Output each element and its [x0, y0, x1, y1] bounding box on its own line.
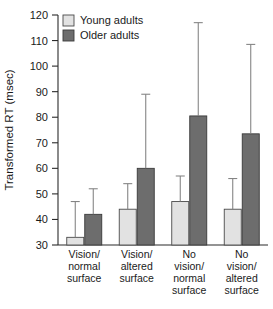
bar-older-adults	[137, 168, 154, 245]
y-tick-label: 50	[36, 188, 48, 200]
legend-label-older-adults: Older adults	[80, 29, 140, 41]
legend-swatch-older-adults	[63, 30, 74, 41]
y-tick-label: 40	[36, 213, 48, 225]
category-label-line: vision/	[174, 260, 204, 272]
bar-young-adults	[224, 209, 241, 245]
bar-chart: Transformed RT (msec) 304050607080901001…	[0, 0, 273, 309]
category-label-line: normal	[173, 272, 205, 284]
y-tick-label: 90	[36, 86, 48, 98]
category-label-line: Vision/	[121, 248, 152, 260]
category-label-line: surface	[172, 284, 207, 296]
category-label-line: Vision/	[69, 248, 100, 260]
y-axis-ticks: 30405060708090100110120	[30, 9, 58, 251]
error-bars-layer	[71, 23, 256, 238]
category-label-line: No	[235, 248, 249, 260]
category-labels: Vision/normalsurfaceVision/alteredsurfac…	[67, 248, 259, 296]
category-label-line: vision/	[227, 260, 257, 272]
legend-label-young-adults: Young adults	[80, 14, 144, 26]
chart-container: Transformed RT (msec) 304050607080901001…	[0, 0, 273, 309]
y-tick-label: 110	[30, 35, 48, 47]
bar-young-adults	[67, 237, 84, 245]
category-label-line: surface	[120, 272, 155, 284]
bar-older-adults	[190, 116, 207, 245]
legend: Young adults Older adults	[63, 14, 144, 41]
y-tick-label: 80	[36, 111, 48, 123]
y-tick-label: 60	[36, 162, 48, 174]
y-tick-label: 120	[30, 9, 48, 21]
bar-older-adults	[242, 134, 259, 245]
category-label-line: altered	[121, 260, 153, 272]
category-label-line: No	[183, 248, 197, 260]
category-label-line: altered	[226, 272, 258, 284]
legend-swatch-young-adults	[63, 15, 74, 26]
category-label-line: surface	[67, 272, 102, 284]
y-axis-title: Transformed RT (msec)	[3, 69, 15, 190]
bar-young-adults	[172, 202, 189, 245]
bar-older-adults	[85, 214, 102, 245]
category-label-line: surface	[225, 284, 260, 296]
bars-layer	[67, 116, 260, 245]
y-tick-label: 100	[30, 60, 48, 72]
bar-young-adults	[119, 209, 136, 245]
category-label-line: normal	[68, 260, 100, 272]
y-tick-label: 70	[36, 137, 48, 149]
y-tick-label: 30	[36, 239, 48, 251]
